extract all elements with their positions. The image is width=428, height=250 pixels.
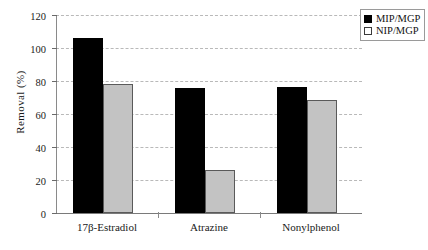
x-axis-label: Atrazine (158, 221, 260, 233)
x-axis-label: 17β-Estradiol (56, 221, 158, 233)
outlined-white-square-icon (364, 27, 372, 35)
y-axis-tick-label: 40 (36, 143, 47, 154)
filled-black-square-icon (364, 15, 372, 23)
y-axis-tick-label: 20 (36, 176, 47, 187)
bar-nip (307, 100, 337, 213)
bar-nip (205, 170, 235, 213)
gridline (56, 213, 362, 214)
y-axis-tick-label: 80 (36, 77, 47, 88)
y-axis-tick-label: 100 (30, 44, 46, 55)
y-axis-title: Removal (%) (14, 37, 26, 167)
legend-item: NIP/MGP (364, 26, 420, 37)
bar-nip (103, 84, 133, 213)
x-axis-separator (158, 212, 159, 218)
plot-area: 020406080100120 (56, 15, 362, 213)
bar-group (260, 15, 362, 213)
bar-group (158, 15, 260, 213)
bar-mip (175, 88, 205, 213)
x-axis-label: Nonylphenol (260, 221, 362, 233)
y-axis-tick-label: 0 (41, 209, 46, 220)
legend-item: MIP/MGP (364, 14, 420, 25)
x-axis-separator (260, 212, 261, 218)
y-axis-tick: 0 (52, 213, 57, 214)
y-axis-tick-label: 120 (30, 11, 46, 22)
bar-chart-figure: Removal (%) 020406080100120 17β-Estradio… (0, 0, 428, 250)
legend-item-label: MIP/MGP (376, 14, 420, 25)
bar-mip (73, 38, 103, 213)
bar-group (56, 15, 158, 213)
y-axis-tick-label: 60 (36, 110, 47, 121)
chart-legend: MIP/MGPNIP/MGP (360, 9, 425, 41)
legend-item-label: NIP/MGP (376, 26, 419, 37)
bar-mip (277, 87, 307, 213)
